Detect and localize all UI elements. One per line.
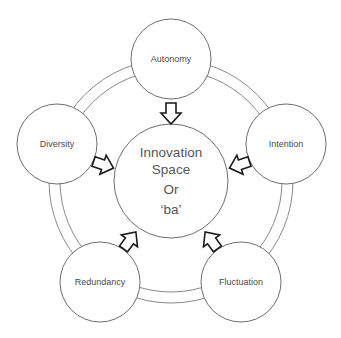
innovation-space-diagram: Innovation Space Or ‘ba’ Autonomy Intent… [0, 0, 341, 338]
intention-label: Intention [269, 139, 304, 149]
autonomy-label: Autonomy [151, 54, 192, 64]
node-intention: Intention [246, 104, 326, 184]
center-label-line-4: ‘ba’ [160, 202, 181, 217]
center-label-line-3: Or [164, 182, 180, 197]
autonomy-arrow-icon [161, 103, 181, 124]
center-label-line-1: Innovation [140, 145, 202, 160]
center-label-line-2: Space [152, 162, 190, 177]
fluctuation-label: Fluctuation [219, 277, 263, 287]
node-diversity: Diversity [17, 104, 97, 184]
node-autonomy: Autonomy [131, 19, 211, 99]
node-redundancy: Redundancy [60, 242, 140, 322]
center-circle [114, 124, 228, 238]
redundancy-label: Redundancy [75, 277, 126, 287]
diversity-label: Diversity [40, 139, 75, 149]
node-fluctuation: Fluctuation [201, 242, 281, 322]
center-node: Innovation Space Or ‘ba’ [114, 124, 228, 238]
